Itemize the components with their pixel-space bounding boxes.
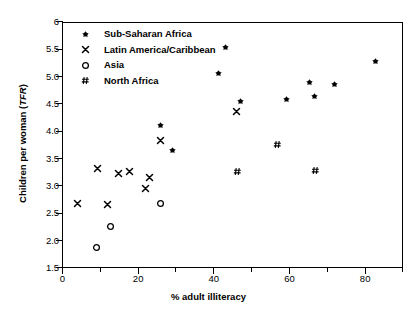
legend-marker-icon xyxy=(78,73,92,89)
x-axis-tick-label: 40 xyxy=(199,274,229,284)
y-axis-title-italic: TFR xyxy=(17,87,28,105)
y-axis-tick-label: 5.0 xyxy=(25,72,59,82)
y-axis-tick-label: 3.0 xyxy=(25,181,59,191)
legend-marker-icon xyxy=(78,42,92,58)
y-axis-tick-label: 5.5 xyxy=(25,44,59,54)
y-axis-tick-label: 2.5 xyxy=(25,208,59,218)
legend-item-label: Latin America/Caribbean xyxy=(104,42,216,58)
y-axis-title-tail: ) xyxy=(17,84,28,87)
x-axis-tick-label: 20 xyxy=(123,274,153,284)
legend-item-label: North Africa xyxy=(104,73,159,89)
x-axis-title: % adult illiteracy xyxy=(0,291,417,302)
legend-marker-icon xyxy=(78,57,92,73)
x-axis-tick-label: 80 xyxy=(350,274,380,284)
x-axis-tick xyxy=(402,268,403,272)
y-axis-tick-label: 6 xyxy=(25,17,59,27)
scatter-plot-figure: 1.52.02.53.03.54.04.55.05.56020406080 Su… xyxy=(0,0,417,313)
x-axis-tick xyxy=(251,268,252,272)
legend-item-label: Asia xyxy=(104,57,124,73)
x-axis-tick-label: 0 xyxy=(48,274,78,284)
legend-item: Sub-Saharan Africa xyxy=(78,26,258,42)
x-axis-tick xyxy=(175,268,176,272)
y-axis-tick-label: 1.5 xyxy=(25,263,59,273)
legend-item-label: Sub-Saharan Africa xyxy=(104,26,192,42)
x-axis-tick-label: 60 xyxy=(275,274,305,284)
x-axis-tick xyxy=(100,268,101,272)
x-axis-tick xyxy=(327,268,328,272)
chart-legend: Sub-Saharan AfricaLatin America/Caribbea… xyxy=(78,26,258,88)
y-axis-tick-label: 3.5 xyxy=(25,154,59,164)
legend-marker-icon xyxy=(78,26,92,42)
y-axis-tick-label: 4.0 xyxy=(25,126,59,136)
legend-item: Latin America/Caribbean xyxy=(78,42,258,58)
legend-item: Asia xyxy=(78,57,258,73)
y-axis-tick-label: 4.5 xyxy=(25,99,59,109)
y-axis-tick-label: 2.0 xyxy=(25,236,59,246)
legend-item: North Africa xyxy=(78,73,258,89)
y-axis-title: Children per woman (TFR) xyxy=(17,39,28,249)
y-axis-title-plain: Children per woman ( xyxy=(17,106,28,203)
